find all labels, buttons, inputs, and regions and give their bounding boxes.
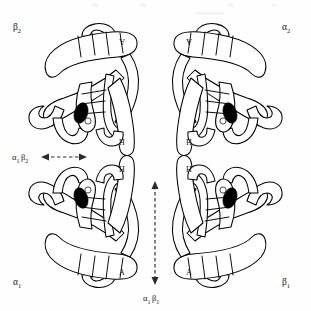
subunit-label-alpha2: α2 xyxy=(282,22,290,34)
subunit-label-beta1: β1 xyxy=(282,277,290,289)
helix-label-h-alpha1: H xyxy=(119,165,125,174)
figure-canvas: A H β2 xyxy=(0,0,311,311)
interface-arrow-head-up xyxy=(152,181,159,189)
interface-arrow-head-down xyxy=(152,277,159,285)
helix-label-h-beta2: H xyxy=(119,138,125,147)
hemoglobin-tetramer-figure: A H β2 xyxy=(0,0,311,311)
interface-label-alpha1beta2: α1 β2 xyxy=(12,152,28,164)
helix-label-a-alpha2: A xyxy=(186,37,192,46)
interface-arrow-head-left xyxy=(41,154,49,161)
interface-arrow-head-right xyxy=(79,154,87,161)
helix-label-a-beta2: A xyxy=(119,37,125,46)
scan-artifacts xyxy=(92,3,276,15)
helix-label-a-beta1: A xyxy=(186,268,192,277)
interface-alpha1beta1: α1 β1 xyxy=(143,181,159,305)
subunit-label-alpha1: α1 xyxy=(13,277,21,289)
helix-label-h-alpha2: H xyxy=(186,138,192,147)
subunit-beta2: A H β2 xyxy=(13,22,139,155)
interface-alpha1beta2: α1 β2 xyxy=(12,152,87,164)
subunit-label-beta2: β2 xyxy=(13,22,21,34)
helix-label-h-beta1: H xyxy=(186,165,192,174)
helix-label-a-alpha1: A xyxy=(119,268,125,277)
interface-label-alpha1beta1: α1 β1 xyxy=(143,293,159,305)
